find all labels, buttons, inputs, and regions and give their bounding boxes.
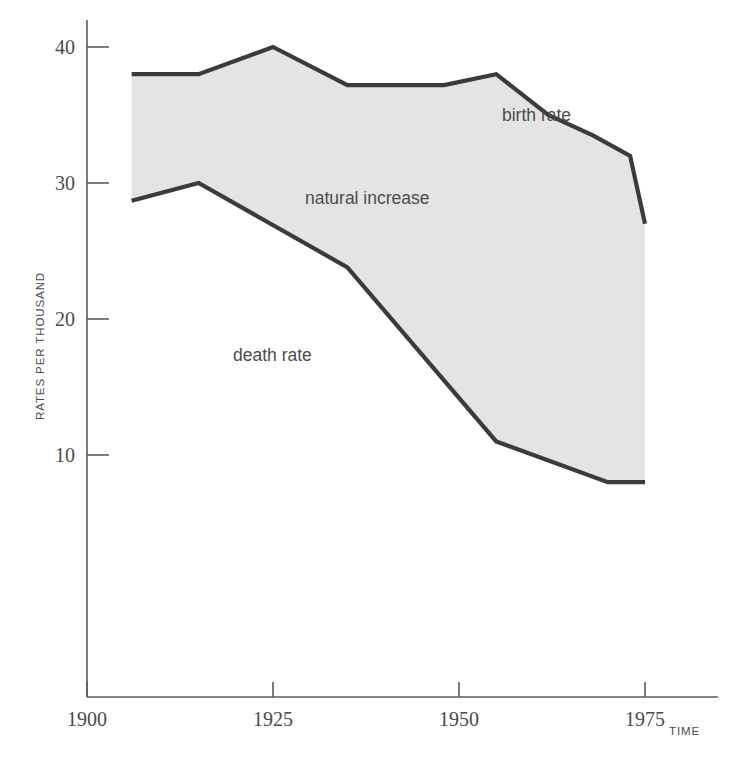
x-axis-tick-labels: 1900192519501975 [67, 708, 665, 730]
x-axis-title: TIME [669, 725, 700, 737]
x-tick-label-1950: 1950 [439, 708, 479, 730]
natural-increase-label: natural increase [305, 188, 430, 208]
x-tick-label-1900: 1900 [67, 708, 107, 730]
y-tick-label-30: 30 [55, 172, 75, 194]
demographic-transition-chart: 10203040 1900192519501975 RATES PER THOU… [0, 0, 737, 767]
y-tick-label-40: 40 [55, 36, 75, 58]
x-tick-label-1925: 1925 [253, 708, 293, 730]
birth-rate-label: birth rate [502, 105, 571, 125]
y-axis-ticks [87, 47, 109, 455]
death-rate-label: death rate [233, 345, 312, 365]
x-tick-label-1975: 1975 [625, 708, 665, 730]
y-tick-label-20: 20 [55, 308, 75, 330]
y-axis-title: RATES PER THOUSAND [34, 272, 46, 420]
x-axis-ticks [273, 682, 645, 697]
y-tick-label-10: 10 [55, 444, 75, 466]
y-axis-tick-labels: 10203040 [55, 36, 75, 466]
chart-container: 10203040 1900192519501975 RATES PER THOU… [0, 0, 737, 767]
